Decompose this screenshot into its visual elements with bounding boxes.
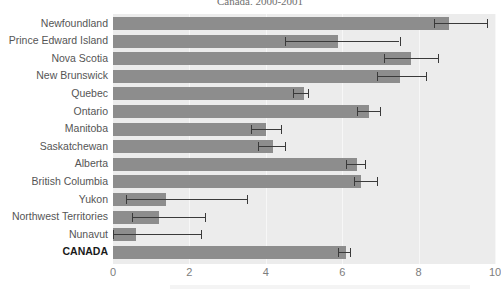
error-bar-line [126, 199, 246, 200]
error-bar-cap-low [258, 142, 259, 151]
error-bar-cap-high [205, 213, 206, 222]
error-bar-cap-low [251, 125, 252, 134]
x-tick-label: 8 [416, 266, 422, 278]
error-bar-line [384, 58, 437, 59]
bar[interactable] [113, 246, 346, 259]
category-label: Ontario [0, 105, 108, 118]
category-label: Prince Edward Island [0, 34, 108, 47]
bar-row[interactable] [113, 87, 495, 100]
error-bar-cap-high [438, 54, 439, 63]
category-axis-labels: NewfoundlandPrince Edward IslandNova Sco… [0, 14, 108, 264]
error-bar-line [113, 234, 201, 235]
bar[interactable] [113, 52, 411, 65]
chart-figure: Canada, 2000-2001 NewfoundlandPrince Edw… [0, 0, 501, 293]
error-bar-cap-low [293, 89, 294, 98]
bar-row[interactable] [113, 52, 495, 65]
error-bar-cap-low [434, 19, 435, 28]
bar-row[interactable] [113, 17, 495, 30]
error-bar-line [354, 181, 377, 182]
bar[interactable] [113, 105, 369, 118]
error-bar-line [346, 164, 365, 165]
category-label: Alberta [0, 157, 108, 170]
category-label: Newfoundland [0, 17, 108, 30]
error-bar-line [377, 76, 427, 77]
error-bar-cap-high [365, 160, 366, 169]
error-bar-cap-low [338, 248, 339, 257]
bar-row[interactable] [113, 105, 495, 118]
error-bar-cap-low [113, 230, 114, 239]
category-label: Saskatchewan [0, 140, 108, 153]
bar-row[interactable] [113, 70, 495, 83]
error-bar-cap-low [384, 54, 385, 63]
error-bar-cap-low [354, 177, 355, 186]
error-bar-cap-high [380, 107, 381, 116]
bar[interactable] [113, 17, 449, 30]
error-bar-cap-high [377, 177, 378, 186]
category-label: Yukon [0, 193, 108, 206]
error-bar-cap-high [201, 230, 202, 239]
x-tick-label: 10 [489, 266, 501, 278]
error-bar-cap-low [132, 213, 133, 222]
bar[interactable] [113, 175, 361, 188]
error-bar-line [132, 217, 205, 218]
footer-rule [170, 285, 470, 289]
category-label: Northwest Territories [0, 210, 108, 223]
bar-row[interactable] [113, 158, 495, 171]
error-bar-cap-low [346, 160, 347, 169]
x-tick-label: 0 [110, 266, 116, 278]
bar-series [113, 14, 495, 264]
error-bar-cap-high [281, 125, 282, 134]
error-bar-cap-high [308, 89, 309, 98]
error-bar-line [357, 111, 380, 112]
error-bar-cap-high [285, 142, 286, 151]
error-bar-cap-low [357, 107, 358, 116]
error-bar-cap-high [247, 195, 248, 204]
bar-row[interactable] [113, 193, 495, 206]
gridline [495, 14, 496, 264]
category-label: British Columbia [0, 175, 108, 188]
error-bar-cap-high [400, 37, 401, 46]
error-bar-line [293, 93, 308, 94]
error-bar-cap-low [126, 195, 127, 204]
bar-row[interactable] [113, 228, 495, 241]
plot-area [113, 14, 495, 264]
category-label: CANADA [0, 245, 108, 258]
error-bar-line [434, 23, 487, 24]
error-bar-line [258, 146, 285, 147]
error-bar-cap-high [487, 19, 488, 28]
error-bar-cap-high [350, 248, 351, 257]
error-bar-line [285, 41, 400, 42]
bar[interactable] [113, 123, 266, 136]
error-bar-cap-high [426, 72, 427, 81]
category-label: Nova Scotia [0, 52, 108, 65]
error-bar-line [251, 129, 282, 130]
x-axis: 0246810 [0, 266, 501, 282]
error-bar-cap-low [285, 37, 286, 46]
error-bar-cap-low [377, 72, 378, 81]
bar[interactable] [113, 87, 304, 100]
bar-row[interactable] [113, 123, 495, 136]
x-tick-label: 4 [263, 266, 269, 278]
bar[interactable] [113, 158, 357, 171]
bar-row[interactable] [113, 140, 495, 153]
category-label: New Brunswick [0, 69, 108, 82]
chart-title: Canada, 2000-2001 [130, 0, 390, 5]
bar-row[interactable] [113, 175, 495, 188]
bar[interactable] [113, 140, 273, 153]
bar[interactable] [113, 70, 400, 83]
bar-row[interactable] [113, 211, 495, 224]
bar-row[interactable] [113, 35, 495, 48]
x-tick-label: 6 [339, 266, 345, 278]
category-label: Quebec [0, 87, 108, 100]
x-tick-label: 2 [186, 266, 192, 278]
category-label: Nunavut [0, 228, 108, 241]
category-label: Manitoba [0, 122, 108, 135]
error-bar-line [338, 252, 349, 253]
bar-row[interactable] [113, 246, 495, 259]
